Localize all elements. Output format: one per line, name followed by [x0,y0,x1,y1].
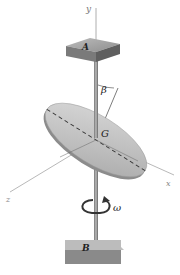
x-axis-label: x [166,179,171,188]
omega-label: ω [113,202,121,213]
y-axis: y [85,4,96,40]
beta-label: β [100,84,107,95]
center-label: G [101,128,109,139]
diagram-canvas: y A β x z G ω B [0,0,180,275]
bearing-b-label: B [81,243,90,253]
y-axis-label: y [85,4,92,14]
rotation-arrow-icon: ω [82,196,121,213]
bearing-b: B [65,240,124,264]
shaft-upper-visible [94,102,98,138]
bearing-a-label: A [81,42,89,52]
bearing-a: A [66,38,120,62]
z-axis-label: z [5,195,11,204]
